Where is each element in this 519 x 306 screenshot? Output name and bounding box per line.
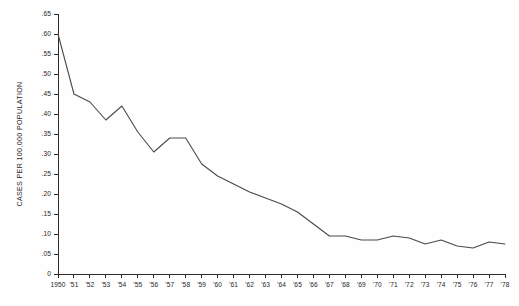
y-tick-label: .20 (42, 190, 52, 197)
x-tick-label: '75 (453, 281, 462, 288)
x-axis-ticks: 1950'51'52'53'54'55'56'57'58'59'60'61'62… (50, 274, 509, 288)
x-tick-label: '66 (309, 281, 318, 288)
x-tick-label: '71 (389, 281, 398, 288)
line-chart: 0.05.10.15.20.25.30.35.40.45.50.55.60.65… (0, 0, 519, 306)
x-tick-label: '57 (165, 281, 174, 288)
x-tick-label: '61 (229, 281, 238, 288)
y-tick-label: .45 (42, 90, 52, 97)
y-tick-label: .10 (42, 230, 52, 237)
x-tick-label: '62 (245, 281, 254, 288)
y-tick-label: .30 (42, 150, 52, 157)
y-tick-label: .25 (42, 170, 52, 177)
x-tick-label: '54 (117, 281, 126, 288)
x-tick-label: '52 (85, 281, 94, 288)
y-tick-label: .05 (42, 250, 52, 257)
y-tick-label: .65 (42, 10, 52, 17)
x-tick-label: 1950 (50, 281, 65, 288)
x-tick-label: '51 (70, 281, 79, 288)
x-tick-label: '67 (325, 281, 334, 288)
y-axis-ticks: 0.05.10.15.20.25.30.35.40.45.50.55.60.65 (42, 10, 58, 277)
x-tick-label: '78 (501, 281, 510, 288)
x-tick-label: '65 (293, 281, 302, 288)
x-tick-label: '68 (341, 281, 350, 288)
x-tick-label: '73 (421, 281, 430, 288)
y-tick-label: 0 (47, 270, 51, 277)
x-tick-label: '77 (485, 281, 494, 288)
x-tick-label: '60 (213, 281, 222, 288)
x-tick-label: '74 (437, 281, 446, 288)
x-tick-label: '53 (101, 281, 110, 288)
x-tick-label: '72 (405, 281, 414, 288)
x-tick-label: '70 (373, 281, 382, 288)
y-tick-label: .40 (42, 110, 52, 117)
y-tick-label: .15 (42, 210, 52, 217)
x-tick-label: '69 (357, 281, 366, 288)
chart-container: 0.05.10.15.20.25.30.35.40.45.50.55.60.65… (0, 0, 519, 306)
x-tick-label: '55 (133, 281, 142, 288)
x-tick-label: '58 (181, 281, 190, 288)
data-series-line (58, 34, 505, 248)
x-tick-label: '59 (197, 281, 206, 288)
y-axis-title: CASES PER 100,000 POPULATION (16, 81, 24, 206)
x-tick-label: '63 (261, 281, 270, 288)
y-tick-label: .50 (42, 70, 52, 77)
y-tick-label: .55 (42, 50, 52, 57)
x-tick-label: '76 (469, 281, 478, 288)
y-tick-label: .60 (42, 30, 52, 37)
x-tick-label: '56 (149, 281, 158, 288)
y-tick-label: .35 (42, 130, 52, 137)
x-tick-label: '64 (277, 281, 286, 288)
